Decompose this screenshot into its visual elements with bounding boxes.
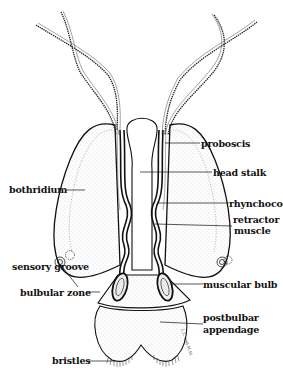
label-proboscis: proboscis — [201, 139, 250, 149]
label-postbulbar-appendage-line1: postbulbar — [203, 313, 259, 323]
label-head-stalk: head stalk — [213, 168, 266, 178]
label-bulbular-zone: bulbular zone — [20, 288, 91, 298]
label-muscular-bulb: muscular bulb — [203, 280, 277, 290]
label-bristles: bristles — [52, 356, 90, 366]
label-retractor-muscle-line1: retractor — [233, 215, 279, 225]
label-sensory-groove: sensory groove — [12, 262, 89, 272]
label-rhynchocoel: rhynchocoel — [229, 199, 283, 209]
label-postbulbar-appendage-line2: appendage — [203, 325, 259, 335]
tentacles — [36, 12, 257, 135]
left-bothridium — [54, 124, 120, 278]
head-stalk — [127, 118, 157, 270]
label-retractor-muscle-line2: muscle — [234, 226, 271, 236]
postbulbar-appendage — [95, 306, 187, 361]
label-bothridium: bothridium — [9, 185, 67, 195]
